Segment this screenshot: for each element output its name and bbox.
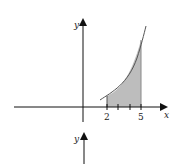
shaded-area	[107, 40, 141, 107]
tick-label-2: 2	[104, 112, 110, 122]
x-axis-label: x	[164, 110, 169, 120]
bottom-graph: y	[73, 134, 84, 164]
y-axis-label-2: y	[73, 134, 80, 144]
y-axis-label: y	[73, 20, 80, 30]
tick-label-5: 5	[138, 112, 144, 122]
area-under-curve-diagram: y x 2 5 y	[0, 0, 183, 164]
top-graph: y x 2 5	[14, 20, 169, 122]
